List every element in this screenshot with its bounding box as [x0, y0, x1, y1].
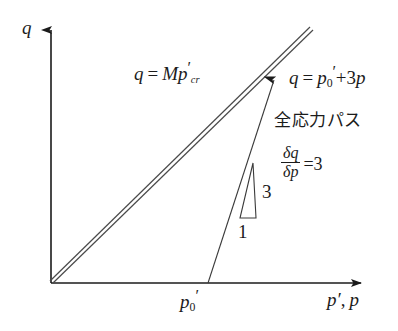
gradient-value: =3	[300, 155, 322, 173]
tsp-equals: =	[299, 67, 318, 88]
x-axis-label-secondary: p	[345, 289, 359, 310]
x-axis-label: p′,p	[327, 290, 359, 309]
total-stress-path-name-label: 全応力パス	[274, 112, 362, 129]
total-stress-path-equation: q=p0′+3p	[289, 64, 366, 90]
x-axis-tick-label-p0: p0′	[180, 288, 199, 314]
tsp-lhs: q	[289, 67, 299, 88]
slope-triangle	[240, 163, 256, 218]
slope-triangle-rise-label: 3	[262, 182, 272, 201]
gradient-fraction: δqδp	[281, 145, 300, 180]
tsp-plus-three: +3	[336, 67, 356, 88]
p0-prime: ′	[195, 287, 198, 304]
y-axis-label: q	[22, 18, 32, 37]
slope-triangle-run-label: 1	[238, 222, 248, 241]
gradient-annotation: δqδp=3	[281, 146, 323, 181]
critical-state-line-equation: q=Mp′cr	[134, 60, 200, 86]
csl-M: M	[162, 63, 178, 84]
stress-path-diagram: q p′,p p0′ q=Mp′cr q=p0′+3p 全応力パス δqδp=3…	[0, 0, 398, 331]
tsp-p: p	[317, 67, 327, 88]
x-axis-label-primary: p′	[327, 289, 341, 310]
p0-base: p	[180, 291, 190, 312]
csl-p: p	[178, 63, 188, 84]
csl-subscript-cr: cr	[191, 74, 200, 85]
diagram-canvas	[0, 0, 398, 331]
csl-lhs: q	[134, 63, 144, 84]
gradient-numerator: δq	[281, 145, 300, 162]
tsp-p2: p	[356, 67, 366, 88]
csl-equals: =	[144, 63, 163, 84]
gradient-denominator: δp	[281, 163, 300, 180]
